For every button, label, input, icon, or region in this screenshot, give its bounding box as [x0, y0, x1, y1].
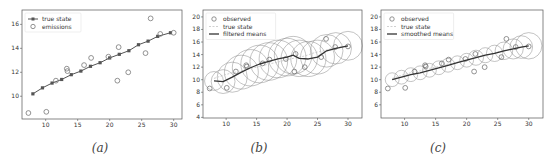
- x-tick-label: 25: [494, 120, 502, 127]
- caption-c: (c): [418, 141, 458, 155]
- y-tick-label: 18: [370, 25, 378, 32]
- legend: observedtrue statesmoothed means: [384, 13, 454, 40]
- y-tick-label: 16: [370, 38, 378, 45]
- legend-label: true state: [401, 23, 431, 30]
- y-tick-label: 10: [370, 76, 378, 83]
- legend-label: observed: [401, 15, 429, 22]
- caption-a: (a): [80, 141, 120, 155]
- chart-panel-c: 101520253068101214161820observedtrue sta…: [0, 0, 557, 135]
- x-tick-label: 20: [463, 120, 471, 127]
- chart-c-plot: 101520253068101214161820observedtrue sta…: [0, 0, 557, 135]
- legend-label: smoothed means: [401, 30, 453, 37]
- y-tick-label: 8: [374, 88, 378, 95]
- x-tick-label: 10: [401, 120, 409, 127]
- y-tick-label: 14: [370, 51, 378, 58]
- y-tick-label: 12: [370, 63, 378, 70]
- uncertainty-circles: [385, 33, 542, 87]
- y-tick-label: 20: [370, 13, 378, 20]
- x-tick-label: 30: [525, 120, 533, 127]
- series-observed: [385, 36, 531, 90]
- x-tick-label: 15: [432, 120, 440, 127]
- y-tick-label: 6: [374, 101, 378, 108]
- caption-b: (b): [239, 141, 279, 155]
